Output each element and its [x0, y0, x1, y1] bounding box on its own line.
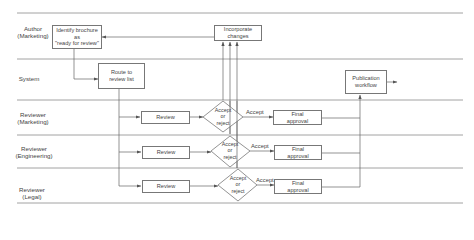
- lane-label-line: Reviewer: [12, 145, 56, 152]
- node-publication-workflow: Publication workflow: [345, 70, 387, 94]
- edge-label-accept-marketing: Accept: [246, 109, 264, 115]
- node-text: Incorporate: [224, 26, 252, 33]
- decision-text-legal: Accept or reject: [224, 175, 252, 194]
- node-incorporate-changes: Incorporate changes: [214, 25, 262, 41]
- node-text: "ready for review": [55, 40, 99, 47]
- node-text: as: [55, 34, 99, 41]
- lane-label-reviewer-engineering: Reviewer (Engineering): [12, 145, 56, 160]
- decision-text-marketing: Accept or reject: [209, 107, 237, 126]
- lane-label-line: (Engineering): [12, 152, 56, 159]
- lane-label-line: System: [12, 75, 46, 82]
- node-route-to-review-list: Route to review list: [98, 63, 145, 89]
- node-text: review list: [109, 76, 134, 83]
- node-final-approval-marketing: Final approval: [273, 110, 322, 125]
- lane-label-line: (Marketing): [12, 32, 54, 39]
- lane-label-reviewer-legal: Reviewer (Legal): [12, 186, 52, 201]
- node-text: Final: [287, 111, 308, 118]
- node-text: Final: [287, 146, 308, 153]
- node-review-legal: Review: [142, 180, 190, 193]
- lane-label-line: Reviewer: [12, 186, 52, 193]
- decision-text: reject: [224, 188, 252, 194]
- node-text: Review: [156, 114, 174, 121]
- lane-label-system: System: [12, 75, 46, 82]
- node-text: approval: [287, 118, 308, 125]
- node-final-approval-engineering: Final approval: [274, 145, 322, 160]
- node-text: workflow: [352, 82, 379, 89]
- node-text: Review: [157, 149, 175, 156]
- lane-label-author: Author (Marketing): [12, 25, 54, 40]
- node-text: Route to: [109, 69, 134, 76]
- node-text: Identify brochure: [55, 27, 99, 34]
- lane-label-line: Author: [12, 25, 54, 32]
- decision-text: reject: [209, 120, 237, 126]
- node-text: Publication: [352, 75, 379, 82]
- decision-text-engineering: Accept or reject: [216, 141, 244, 160]
- edge-label-accept-engineering: Accept: [251, 143, 269, 149]
- lane-label-line: (Legal): [12, 193, 52, 200]
- node-text: Review: [157, 183, 175, 190]
- lane-label-line: Reviewer: [12, 111, 54, 118]
- node-review-marketing: Review: [141, 111, 190, 124]
- node-final-approval-legal: Final approval: [274, 179, 322, 194]
- decision-text: reject: [216, 154, 244, 160]
- node-text: approval: [287, 187, 308, 194]
- node-review-engineering: Review: [142, 146, 190, 159]
- node-text: changes: [224, 33, 252, 40]
- node-text: approval: [287, 153, 308, 160]
- edge-label-accept-legal: Accept: [256, 177, 274, 183]
- lane-label-line: (Marketing): [12, 118, 54, 125]
- node-identify-brochure: Identify brochure as "ready for review": [52, 25, 102, 49]
- lane-label-reviewer-marketing: Reviewer (Marketing): [12, 111, 54, 126]
- node-text: Final: [287, 180, 308, 187]
